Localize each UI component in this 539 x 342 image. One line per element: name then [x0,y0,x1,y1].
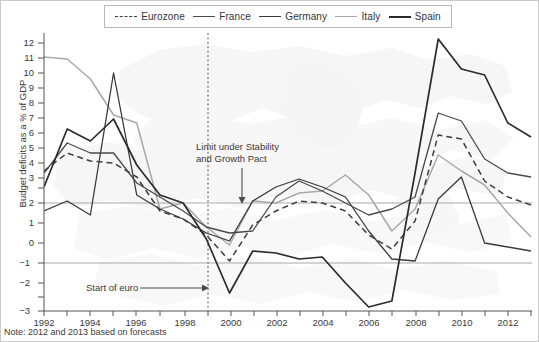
legend-label-france: France [219,11,251,22]
background-map-watermark [54,44,514,306]
x-tick-label-2008: 2008 [396,317,436,328]
y-tick-label-12: 12 [12,37,34,48]
chart-container: Eurozone France Germany Italy Spain Budg… [0,0,539,342]
legend-swatch-spain [389,16,411,18]
y-axis-ticks [38,43,44,311]
x-tick-label-2010: 2010 [442,317,482,328]
legend-label-italy: Italy [361,11,380,22]
y-tick-label-4: 4 [12,157,34,168]
x-tick-label-2000: 2000 [211,317,251,328]
chart-plot-area [0,0,539,342]
y-tick-label-1: 1 [12,217,34,228]
legend-swatch-germany [259,16,281,17]
x-axis-ticks [44,311,531,316]
legend-item-italy[interactable]: Italy [335,11,380,22]
y-tick-label-9: 9 [12,82,34,93]
legend-swatch-eurozone [115,16,137,17]
y-tick-label-10: 10 [12,67,34,78]
y-tick-label-neg1: −1 [8,257,30,268]
y-tick-label-8: 8 [12,97,34,108]
y-tick-label-6: 6 [12,127,34,138]
chart-legend: Eurozone France Germany Italy Spain [104,5,452,28]
legend-swatch-italy [335,16,357,17]
x-tick-label-1998: 1998 [165,317,205,328]
legend-swatch-france [193,16,215,17]
chart-footnote: Note: 2012 and 2013 based on forecasts [4,327,167,337]
y-tick-label-3: 3 [12,172,34,183]
legend-label-spain: Spain [415,11,441,22]
start-of-euro-annotation: Start of euro [86,282,138,294]
y-tick-label-0: 0 [12,237,34,248]
x-tick-label-2002: 2002 [257,317,297,328]
legend-item-eurozone[interactable]: Eurozone [115,11,185,22]
y-tick-label-11: 11 [12,52,34,63]
legend-item-france[interactable]: France [193,11,251,22]
legend-label-germany: Germany [285,11,327,22]
legend-item-spain[interactable]: Spain [389,11,441,22]
y-tick-label-2: 2 [12,197,34,208]
x-tick-label-2006: 2006 [349,317,389,328]
y-tick-label-neg3: −3 [8,305,30,316]
limit-annotation-line1: Limit under Stability [196,141,279,153]
legend-item-germany[interactable]: Germany [259,11,327,22]
legend-label-eurozone: Eurozone [141,11,185,22]
y-tick-label-7: 7 [12,112,34,123]
x-tick-label-2004: 2004 [303,317,343,328]
x-tick-label-2012: 2012 [488,317,528,328]
y-tick-label-neg2: −2 [8,277,30,288]
y-tick-label-5: 5 [12,142,34,153]
limit-annotation-line2: and Growth Pact [196,153,267,165]
